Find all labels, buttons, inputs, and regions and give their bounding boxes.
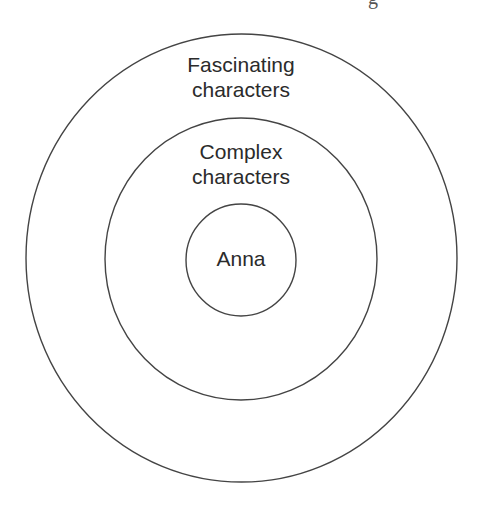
middle-label-line2: characters — [141, 164, 341, 189]
inner-ring-label: Anna — [191, 246, 291, 271]
middle-ring-label: Complex characters — [141, 139, 341, 189]
clipped-caption-fragment: g — [368, 0, 378, 9]
outer-ring-label: Fascinating characters — [141, 52, 341, 102]
concentric-circles-diagram: g Fascinating characters Complex charact… — [0, 0, 477, 505]
outer-label-line2: characters — [141, 77, 341, 102]
middle-label-line1: Complex — [141, 139, 341, 164]
outer-label-line1: Fascinating — [141, 52, 341, 77]
